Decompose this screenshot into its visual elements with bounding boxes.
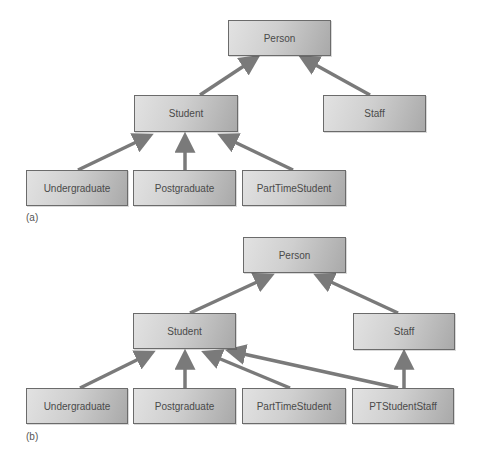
class-student-b: Student <box>133 313 236 349</box>
class-staff-b: Staff <box>353 313 455 350</box>
class-student-a: Student <box>134 95 238 132</box>
class-label: Person <box>264 33 296 44</box>
class-label: PTStudentStaff <box>369 401 437 412</box>
class-parttimestudent-b: PartTimeStudent <box>242 388 346 424</box>
class-label: Postgraduate <box>155 183 215 194</box>
class-staff-a: Staff <box>323 95 426 132</box>
class-label: PartTimeStudent <box>257 401 332 412</box>
class-label: Staff <box>364 108 384 119</box>
class-ptstudentstaff-b: PTStudentStaff <box>352 388 454 424</box>
class-label: Undergraduate <box>44 401 111 412</box>
class-label: Student <box>169 108 203 119</box>
class-undergraduate-a: Undergraduate <box>26 170 128 206</box>
class-label: Person <box>279 250 311 261</box>
arrow-b-student-person <box>190 276 270 313</box>
class-label: Staff <box>394 326 414 337</box>
arrow-b-staff-person <box>318 276 398 313</box>
arrow-b-undergraduate-student <box>80 353 151 388</box>
arrow-b-ptstudentstaff-student <box>230 351 398 388</box>
class-label: Postgraduate <box>155 401 215 412</box>
class-label: Undergraduate <box>44 183 111 194</box>
arrow-a-staff-person <box>303 58 370 95</box>
class-person-a: Person <box>228 20 331 56</box>
class-label: Student <box>167 326 201 337</box>
caption-b: (b) <box>26 431 38 442</box>
class-parttimestudent-a: PartTimeStudent <box>242 170 346 206</box>
arrow-a-student-person <box>200 58 256 95</box>
caption-a: (a) <box>26 212 38 223</box>
arrow-a-undergraduate-student <box>78 136 149 170</box>
class-postgraduate-b: Postgraduate <box>133 388 236 424</box>
class-undergraduate-b: Undergraduate <box>26 388 128 424</box>
class-label: PartTimeStudent <box>257 183 332 194</box>
class-person-b: Person <box>243 237 346 273</box>
class-postgraduate-a: Postgraduate <box>133 170 236 206</box>
arrow-b-parttimestudent-student <box>206 353 290 388</box>
arrow-a-parttimestudent-student <box>222 136 293 170</box>
